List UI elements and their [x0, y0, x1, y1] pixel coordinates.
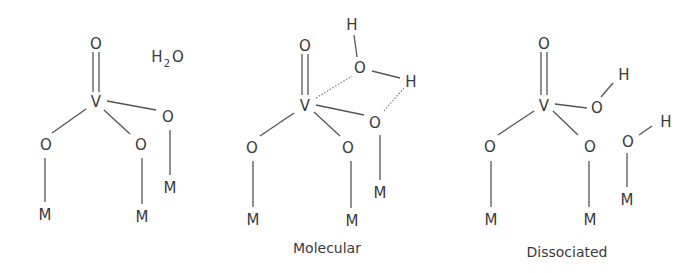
v-o-hydroxyl-bond: [555, 104, 587, 108]
atom-o-right: O: [162, 108, 174, 126]
atom-v: V: [300, 97, 311, 115]
v-o-right-bond: [316, 105, 364, 115]
atom-o-water: O: [354, 59, 366, 77]
water-o: O: [172, 48, 184, 66]
atom-h-bridge: H: [405, 73, 416, 91]
atom-o-right: O: [369, 114, 381, 132]
atom-o-top: O: [299, 37, 311, 55]
atom-m-left: M: [247, 211, 260, 229]
atom-m-mid: M: [346, 212, 359, 230]
atom-m-left: M: [485, 211, 498, 229]
atom-o-mid: O: [342, 139, 354, 157]
atom-h-surface: H: [660, 113, 671, 131]
water-h: H: [151, 48, 162, 66]
atom-m-right: M: [164, 179, 177, 197]
v-o-right-bond: [107, 101, 156, 110]
h-o-water-bond: [354, 35, 357, 57]
structure-dissociated: O V O H O O O H M M M Dissociated: [484, 35, 672, 260]
v-owater-dashed-interaction: [316, 76, 352, 98]
atom-v: V: [91, 93, 102, 111]
atom-h-top: H: [346, 16, 357, 34]
caption-molecular: Molecular: [293, 240, 361, 256]
v-o-mid-bond: [104, 110, 130, 134]
atom-o-top: O: [90, 35, 102, 53]
atom-h-hydroxyl: H: [618, 66, 629, 84]
v-o-mid-bond: [553, 111, 578, 135]
atom-v: V: [539, 97, 550, 115]
atom-m-mid: M: [584, 211, 597, 229]
atom-o-left: O: [246, 139, 258, 157]
v-o-mid-bond: [314, 112, 340, 136]
v-o-left-bond: [52, 109, 86, 133]
atom-o-mid: O: [135, 136, 147, 154]
o-h-bridge-bond: [372, 71, 400, 78]
atom-o-hydroxyl: O: [591, 99, 603, 117]
atom-m-mid: M: [136, 208, 149, 226]
atom-o-left: O: [484, 138, 496, 156]
structure-initial: O V O O O M M M H 2 O: [39, 35, 184, 226]
atom-m-left: M: [39, 206, 52, 224]
water-subscript-2: 2: [164, 58, 170, 69]
atom-m-right: M: [374, 184, 387, 202]
vanadia-water-adsorption-diagram: O V O O O M M M H 2 O O V H O: [0, 0, 700, 273]
atom-m-right: M: [621, 191, 634, 209]
atom-o-top: O: [538, 35, 550, 53]
v-o-left-bond: [260, 113, 294, 136]
o-h-hydroxyl-bond: [601, 83, 613, 97]
v-o-left-bond: [498, 111, 534, 135]
structure-molecular: O V H O H O O O M M M Molecular: [246, 16, 417, 256]
atom-o-left: O: [40, 136, 52, 154]
atom-o-surface: O: [622, 133, 634, 151]
o-h-surface-bond: [639, 126, 652, 135]
atom-o-mid: O: [584, 138, 596, 156]
h-o-right-hydrogen-bond: [383, 88, 404, 112]
caption-dissociated: Dissociated: [527, 244, 608, 260]
